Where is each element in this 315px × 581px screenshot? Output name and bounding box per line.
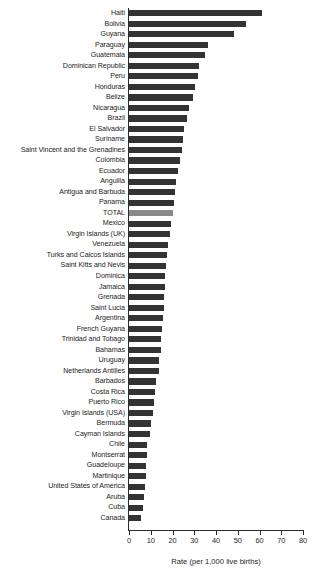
bar-row: Canada (129, 513, 303, 524)
bar-row: Colombia (129, 155, 303, 166)
category-label: Grenada (98, 292, 125, 303)
bar (129, 431, 150, 437)
category-label: Belize (106, 92, 125, 103)
x-tick-label: 50 (234, 536, 242, 545)
category-label: Argentina (95, 313, 125, 324)
bar-row: Turks and Caicos Islands (129, 250, 303, 261)
bar-row: French Guyana (129, 324, 303, 335)
category-label: Anguilla (100, 176, 125, 187)
x-tick-label: 80 (299, 536, 307, 545)
category-label: Venezuela (92, 239, 125, 250)
x-tick (238, 531, 239, 535)
bar-row: Brazil (129, 113, 303, 124)
category-label: Costa Rica (91, 387, 125, 398)
category-label: Barbados (95, 376, 125, 387)
bar-row: Belize (129, 92, 303, 103)
category-label: Trinidad and Tobago (62, 334, 125, 345)
bar (129, 21, 246, 27)
category-label: French Guyana (77, 324, 125, 335)
bar (129, 263, 166, 269)
bar (129, 84, 195, 90)
bar-row: El Salvador (129, 124, 303, 135)
bar-row: Honduras (129, 82, 303, 93)
bar-row: Virgin Islands (USA) (129, 408, 303, 419)
category-label: Saint Lucia (90, 303, 125, 314)
bar (129, 273, 165, 279)
x-tick-label: 70 (277, 536, 285, 545)
category-label: Uruguay (99, 355, 125, 366)
bar (129, 494, 144, 500)
x-tick (281, 531, 282, 535)
category-label: Bermuda (97, 418, 125, 429)
x-tick-label: 60 (255, 536, 263, 545)
bar (129, 168, 178, 174)
bar (129, 336, 161, 342)
bar-row: Dominican Republic (129, 61, 303, 72)
category-label: Paraguay (95, 40, 125, 51)
category-label: Dominican Republic (63, 61, 125, 72)
bar (129, 368, 159, 374)
category-label: Peru (110, 71, 125, 82)
bar-row: Peru (129, 71, 303, 82)
bar-row: Guatemala (129, 50, 303, 61)
bar-row: Mexico (129, 218, 303, 229)
category-label: Saint Vincent and the Grenadines (21, 145, 125, 156)
bar (129, 105, 189, 111)
bar (129, 157, 180, 163)
category-label: El Salvador (89, 124, 125, 135)
bar-row: Barbados (129, 376, 303, 387)
x-tick-label: 10 (147, 536, 155, 545)
bar-row: Bermuda (129, 418, 303, 429)
bar-row: Ecuador (129, 166, 303, 177)
x-tick (151, 531, 152, 535)
bar (129, 221, 171, 227)
bar (129, 147, 182, 153)
category-label: Saint Kitts and Nevis (61, 260, 125, 271)
bar-row: Anguilla (129, 176, 303, 187)
bar-row: Saint Kitts and Nevis (129, 260, 303, 271)
bar-row: United States of America (129, 481, 303, 492)
bar (129, 347, 161, 353)
bar-row: Puerto Rico (129, 397, 303, 408)
bar (129, 126, 184, 132)
bar (129, 326, 162, 332)
bar-row: Trinidad and Tobago (129, 334, 303, 345)
bar (129, 420, 151, 426)
bar-row: Dominica (129, 271, 303, 282)
bar (129, 473, 146, 479)
bar-row: Netherlands Antilles (129, 366, 303, 377)
category-label: Montserrat (92, 450, 125, 461)
bar-row: Venezuela (129, 239, 303, 250)
bar (129, 305, 164, 311)
x-tick (194, 531, 195, 535)
x-tick-label: 20 (168, 536, 176, 545)
x-tick (260, 531, 261, 535)
category-label: Panama (99, 197, 125, 208)
x-axis-title: Rate (per 1,000 live births) (129, 557, 303, 566)
bar-row: Cayman Islands (129, 429, 303, 440)
bar (129, 505, 143, 511)
x-tick (303, 531, 304, 535)
category-label: Virgin Islands (UK) (67, 229, 125, 240)
bar (129, 294, 164, 300)
x-tick-label: 30 (190, 536, 198, 545)
category-label: Antigua and Barbuda (59, 187, 125, 198)
bar (129, 63, 199, 69)
bar (129, 200, 174, 206)
x-tick-label: 0 (127, 536, 131, 545)
bar (129, 442, 147, 448)
bar-row: Aruba (129, 492, 303, 503)
bar (129, 515, 141, 521)
bar-row: Bolivia (129, 19, 303, 30)
category-label: Colombia (95, 155, 125, 166)
bar-row: Guyana (129, 29, 303, 40)
category-label: Chile (109, 439, 125, 450)
bar-row: Chile (129, 439, 303, 450)
x-tick (129, 531, 130, 535)
bar (129, 284, 165, 290)
category-label: Turks and Caicos Islands (47, 250, 125, 261)
bar-row: Panama (129, 197, 303, 208)
category-label: Nicaragua (93, 103, 125, 114)
infant-mortality-bar-chart: HaitiBoliviaGuyanaParaguayGuatemalaDomin… (0, 0, 315, 581)
bar-row: Guadeloupe (129, 460, 303, 471)
